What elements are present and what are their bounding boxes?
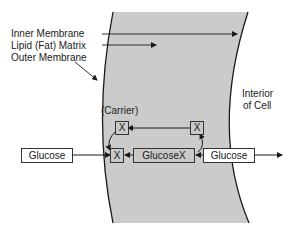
lipid-matrix-label: Lipid (Fat) Matrix: [11, 40, 86, 51]
outer-membrane-pointer: [75, 62, 97, 80]
carrier-x-top-left: X: [115, 121, 129, 135]
carrier-x-bottom: X: [110, 148, 124, 163]
inner-membrane-label: Inner Membrane: [11, 28, 84, 39]
glucosex-box: GlucoseX: [133, 148, 195, 163]
membrane-band: [103, 12, 250, 223]
carrier-label: (Carrier): [101, 105, 138, 116]
outer-membrane-label: Outer Membrane: [11, 52, 87, 63]
carrier-x-top-right: X: [190, 121, 204, 135]
interior-label-line1: Interior: [242, 88, 273, 99]
glucose-inside-box: Glucose: [203, 148, 255, 163]
glucose-outside-box: Glucose: [21, 148, 73, 163]
interior-label-line2: of Cell: [243, 100, 271, 111]
